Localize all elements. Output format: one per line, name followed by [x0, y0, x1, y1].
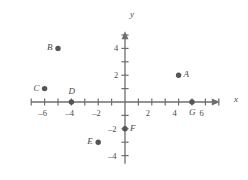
coordinate-plane-figure: x y –6–4–224642–2–4 ABCDEFG — [0, 0, 248, 180]
x-tick-label: 6 — [199, 109, 203, 118]
point-label-e: E — [87, 137, 93, 146]
y-tick-label: 2 — [114, 71, 118, 80]
x-tick-label: 2 — [146, 109, 150, 118]
point-label-f: F — [130, 124, 136, 133]
y-axis-label: y — [130, 10, 134, 19]
x-axis-label: x — [234, 95, 238, 104]
x-tick-label: –4 — [65, 109, 74, 118]
data-point-a — [176, 73, 181, 78]
data-point-e — [96, 140, 101, 145]
x-tick-label: –2 — [92, 109, 101, 118]
y-tick-label: 4 — [114, 44, 118, 53]
point-label-c: C — [34, 84, 40, 93]
data-point-c — [42, 86, 47, 91]
point-label-b: B — [47, 43, 53, 52]
x-tick-label: –6 — [39, 109, 48, 118]
x-tick-label: 4 — [173, 109, 177, 118]
data-point-g — [189, 99, 194, 104]
data-point-b — [55, 46, 60, 51]
y-tick-label: –4 — [108, 152, 117, 161]
point-label-d: D — [68, 87, 75, 96]
point-label-a: A — [184, 70, 190, 79]
point-label-g: G — [189, 108, 196, 117]
data-point-f — [122, 126, 127, 131]
data-point-d — [69, 99, 74, 104]
y-tick-label: –2 — [108, 125, 117, 134]
